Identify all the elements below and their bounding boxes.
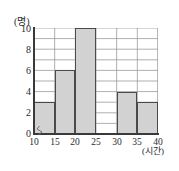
bar-15-20 <box>55 70 76 134</box>
x-axis-unit-label: (시간) <box>142 146 164 156</box>
x-tick-label-20: 20 <box>70 137 80 148</box>
bar-30-35 <box>117 92 138 134</box>
bars-layer <box>34 28 158 134</box>
axis-break-icon <box>35 126 44 136</box>
x-tick-label-15: 15 <box>50 137 60 148</box>
bar-20-25 <box>75 28 96 134</box>
x-tick-label-25: 25 <box>91 137 101 148</box>
y-tick-label-4: 4 <box>26 87 31 97</box>
y-axis-line <box>33 27 35 135</box>
bar-35-40 <box>137 102 158 134</box>
x-tick-label-35: 35 <box>132 137 142 148</box>
y-tick-label-6: 6 <box>26 66 31 76</box>
x-tick-label-10: 10 <box>29 137 39 148</box>
y-tick-label-8: 8 <box>26 45 31 55</box>
y-tick-label-2: 2 <box>26 108 31 118</box>
x-tick-label-30: 30 <box>112 137 122 148</box>
histogram-figure: (명) 10 8 6 4 2 0 <box>0 0 179 171</box>
plot-area <box>34 28 158 134</box>
y-tick-label-10: 10 <box>21 24 31 34</box>
x-axis-line <box>33 133 159 135</box>
